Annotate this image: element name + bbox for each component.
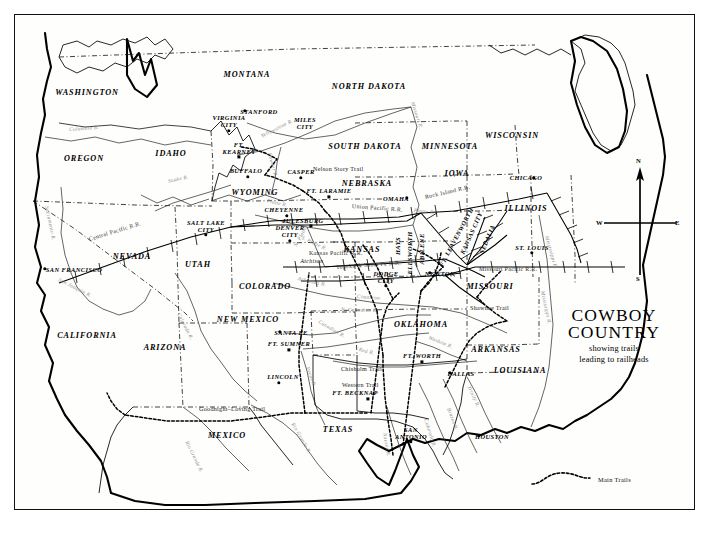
city-marker-ft-sumner: [287, 348, 290, 351]
map-frame: .coast{fill:none;stroke:#000;stroke-widt…: [14, 14, 695, 510]
compass-east-label: E: [675, 219, 679, 226]
legend: Main Trails: [530, 470, 680, 494]
city-marker-ft-laramie: [327, 195, 330, 198]
main-trails-symbol-icon: [530, 470, 592, 488]
compass-icon: [598, 157, 682, 285]
city-marker-ft-kearney: [237, 155, 240, 158]
compass-rose: N S E W: [598, 157, 682, 285]
compass-south-label: S: [636, 275, 640, 282]
legend-label: Main Trails: [598, 476, 631, 483]
map-subtitle-line1: showing trails: [539, 344, 689, 355]
compass-west-label: W: [596, 219, 603, 226]
city-marker-ft-becknap: [366, 397, 369, 400]
title-block: COWBOY COUNTRY showing trails leading to…: [539, 307, 689, 365]
map-title-line2: COUNTRY: [539, 324, 689, 341]
map-graphic: .coast{fill:none;stroke:#000;stroke-widt…: [15, 15, 693, 508]
map-subtitle-line2: leading to railheads: [539, 355, 689, 366]
compass-north-label: N: [636, 157, 641, 164]
city-marker-julesburg: [309, 224, 312, 227]
city-marker-ft-worth: [420, 360, 423, 363]
